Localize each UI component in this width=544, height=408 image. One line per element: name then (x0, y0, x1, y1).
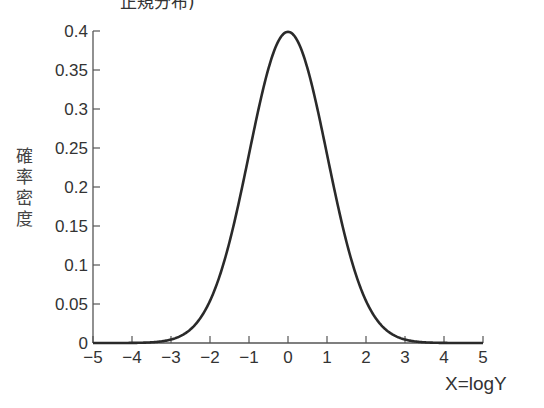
y-tick-label: 0.35 (55, 61, 88, 80)
x-tick-label: −4 (122, 348, 141, 367)
x-tick-label: −1 (239, 348, 258, 367)
y-tick-label: 0.25 (55, 139, 88, 158)
y-tick-label: 0.4 (64, 22, 88, 41)
density-curve (93, 32, 483, 343)
y-tick-label: 0.15 (55, 217, 88, 236)
x-tick-label: 2 (361, 348, 370, 367)
x-axis-label: X=logY (445, 373, 507, 394)
axes (93, 31, 483, 343)
x-tick-label: 0 (283, 348, 292, 367)
x-axis-ticks: −5−4−3−2−1012345 (83, 336, 487, 367)
x-tick-label: 1 (322, 348, 331, 367)
x-tick-label: −3 (161, 348, 180, 367)
chart-plot: 00.050.10.150.20.250.30.350.4 −5−4−3−2−1… (0, 0, 544, 408)
y-tick-label: 0.2 (64, 178, 88, 197)
y-tick-label: 0.3 (64, 100, 88, 119)
x-tick-label: 3 (400, 348, 409, 367)
x-tick-label: 5 (478, 348, 487, 367)
y-tick-label: 0.05 (55, 295, 88, 314)
x-tick-label: −5 (83, 348, 102, 367)
x-tick-label: 4 (439, 348, 448, 367)
y-tick-label: 0.1 (64, 256, 88, 275)
x-tick-label: −2 (200, 348, 219, 367)
